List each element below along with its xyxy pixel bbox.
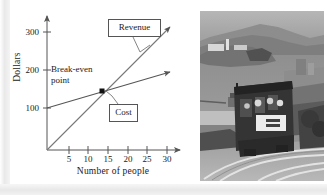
- x-tick-label-5: 5: [60, 154, 78, 164]
- page-edge-shadow-bottom: [0, 184, 327, 195]
- photo-grain: [200, 11, 324, 181]
- cost-callout-box: Cost: [109, 104, 138, 122]
- break-even-marker: [100, 89, 105, 94]
- x-tick-label-15: 15: [99, 154, 117, 164]
- revenue-callout-box: Revenue: [108, 19, 161, 37]
- x-tick-label-20: 20: [119, 154, 137, 164]
- cost-leader-line: [106, 91, 118, 104]
- x-tick-label-25: 25: [138, 154, 156, 164]
- photo-illustration: [200, 11, 324, 181]
- x-tick-label-10: 10: [79, 154, 97, 164]
- break-even-label-line2: point: [51, 75, 107, 86]
- x-axis-title: Number of people: [48, 166, 178, 176]
- x-tick-label-30: 30: [158, 154, 176, 164]
- y-tick-label-100: 100: [15, 103, 39, 113]
- revenue-line: [47, 27, 170, 150]
- y-axis-title: Dollars: [12, 34, 22, 100]
- break-even-label-line1: Break-even: [51, 64, 107, 75]
- break-even-point-label: Break-even point: [51, 64, 107, 86]
- break-even-chart: 300 200 100 5 10 15 20 25 30 Dollars Num…: [0, 0, 185, 185]
- san-francisco-cable-car-photo: [200, 11, 324, 181]
- textbook-figure: 300 200 100 5 10 15 20 25 30 Dollars Num…: [0, 0, 327, 195]
